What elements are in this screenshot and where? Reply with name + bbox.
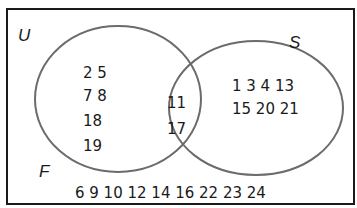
f-only-line-4: 19 [83, 137, 102, 155]
s-only-line-1: 1 3 4 13 [232, 77, 294, 95]
s-only-line-2: 15 20 21 [232, 100, 299, 118]
set-f-label: F [39, 162, 51, 181]
intersection-line-1: 11 [167, 94, 186, 112]
universal-set-label: U [18, 26, 31, 45]
f-only-line-3: 18 [83, 112, 102, 130]
f-only-line-2: 7 8 [83, 87, 107, 105]
f-only-line-1: 2 5 [83, 64, 107, 82]
venn-diagram: U F S 2 5 7 8 18 19 11 17 1 3 4 13 15 20… [0, 0, 357, 208]
outside-values: 6 9 10 12 14 16 22 23 24 [75, 184, 266, 202]
set-s-label: S [289, 33, 301, 52]
intersection-line-2: 17 [167, 120, 186, 138]
